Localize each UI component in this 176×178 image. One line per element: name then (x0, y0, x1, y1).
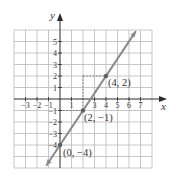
x-tick-label: 4 (104, 101, 108, 110)
x-tick-label: 6 (127, 101, 131, 110)
y-tick-label: −2 (48, 118, 57, 127)
x-tick-label: 3 (93, 101, 97, 110)
x-tick-label: −3 (21, 101, 30, 110)
y-tick-label: 2 (53, 72, 57, 81)
y-axis-arrow-icon (57, 13, 63, 21)
x-tick-label: 7 (139, 101, 143, 110)
x-tick-label: −2 (33, 101, 42, 110)
y-tick-label: −4 (48, 141, 57, 150)
y-tick-label: −1 (48, 107, 57, 116)
point-label-0-neg4: (0, −4) (63, 147, 92, 159)
coordinate-plane: x y −3−2−113456754321−1−2−3−4 (4, 2) (2,… (0, 0, 176, 178)
y-tick-label: −3 (48, 130, 57, 139)
x-tick-label: 5 (116, 101, 120, 110)
point-label-2-neg1: (2, −1) (84, 112, 113, 124)
y-axis-label: y (49, 9, 55, 21)
y-tick-label: 1 (53, 84, 57, 93)
y-tick-label: 5 (53, 38, 57, 47)
x-tick-label: 1 (70, 101, 74, 110)
data-point (58, 143, 62, 147)
x-axis-label: x (160, 100, 166, 112)
y-tick-label: 4 (53, 49, 57, 58)
point-label-4-2: (4, 2) (108, 77, 131, 89)
y-tick-label: 3 (53, 61, 57, 70)
